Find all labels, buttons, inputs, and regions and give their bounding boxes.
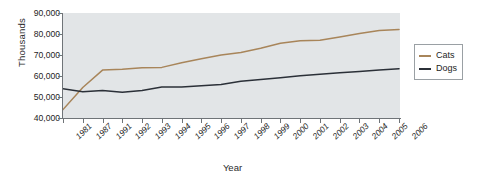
x-axis-tick-label: 1993 <box>153 121 173 141</box>
legend-label-dogs: Dogs <box>436 62 457 75</box>
x-axis-tick-labels: 1981198719911992199319941995199619971998… <box>0 121 481 157</box>
x-axis-tick-label: 2000 <box>291 121 311 141</box>
x-axis-tick-label: 2002 <box>330 121 350 141</box>
chart-figure: Thousands 40,00050,00060,00070,00080,000… <box>0 0 481 183</box>
x-axis-tick-label: 1994 <box>172 121 192 141</box>
y-axis-tick-label: 60,000 <box>34 71 60 81</box>
plot-area <box>63 13 400 118</box>
legend-swatch-dogs <box>419 68 431 70</box>
series-line-dogs <box>63 69 399 93</box>
x-axis-tick-label: 1999 <box>271 121 291 141</box>
x-axis-tick-label: 1987 <box>93 121 113 141</box>
x-axis-tick-label: 1981 <box>73 121 93 141</box>
x-axis-tick-label: 1998 <box>251 121 271 141</box>
x-axis-tick-label: 2004 <box>370 121 390 141</box>
legend-item-cats[interactable]: Cats <box>419 49 457 62</box>
legend-swatch-cats <box>419 55 431 57</box>
y-axis-tick-labels: 40,00050,00060,00070,00080,00090,000 <box>22 13 60 118</box>
x-axis-tick-label: 1995 <box>192 121 212 141</box>
x-axis-tick-label: 2006 <box>409 121 429 141</box>
y-axis-tick-label: 70,000 <box>34 50 60 60</box>
chart-legend: Cats Dogs <box>414 44 463 80</box>
x-axis-tick-label: 1992 <box>133 121 153 141</box>
x-axis-tick-label: 1997 <box>232 121 252 141</box>
x-axis-tick-label: 1996 <box>212 121 232 141</box>
y-axis-tick-label: 80,000 <box>34 29 60 39</box>
legend-item-dogs[interactable]: Dogs <box>419 62 457 75</box>
series-line-cats <box>63 29 399 109</box>
x-axis-line <box>62 118 401 119</box>
legend-label-cats: Cats <box>436 49 455 62</box>
x-axis-tick-label: 2001 <box>311 121 331 141</box>
y-axis-tick-label: 50,000 <box>34 92 60 102</box>
x-axis-tick-label: 1991 <box>113 121 133 141</box>
x-axis-tick-label: 2005 <box>390 121 410 141</box>
y-axis-tick-label: 90,000 <box>34 8 60 18</box>
plot-lines <box>63 13 400 118</box>
x-axis-title: Year <box>150 162 315 173</box>
x-axis-tick-label: 2003 <box>350 121 370 141</box>
